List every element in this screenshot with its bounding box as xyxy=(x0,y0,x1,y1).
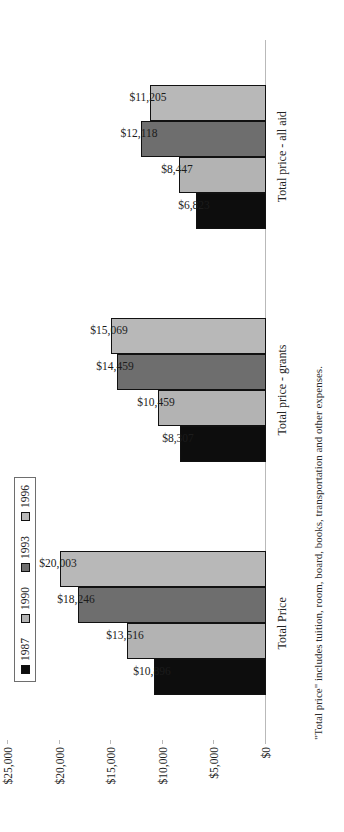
bar-1987-3: $6,823 xyxy=(196,193,266,229)
bar-value-label: $8,447 xyxy=(161,163,193,175)
category-label: Total Price xyxy=(275,507,290,740)
chart-canvas: 1987 1990 1993 1996 $25,000$20,000$15,00… xyxy=(0,0,344,832)
category-label: Total price - all aid xyxy=(275,40,290,273)
bar-1996-1: $20,003 xyxy=(60,551,266,587)
y-tick-label: $20,000 xyxy=(54,747,66,784)
bar-1987-2: $8,307 xyxy=(180,426,266,462)
y-tick xyxy=(265,740,266,744)
bar-1996-2: $15,069 xyxy=(111,318,267,354)
bar-value-label: $13,516 xyxy=(106,629,143,641)
bar-value-label: $12,118 xyxy=(120,127,157,139)
bar-value-label: $6,823 xyxy=(178,199,210,211)
bar-value-label: $15,069 xyxy=(90,324,127,336)
bar-1990-2: $10,459 xyxy=(158,390,266,426)
bar-group: $8,307$10,459$14,459$15,069Total price -… xyxy=(8,273,266,506)
plot-area: $25,000$20,000$15,000$10,000$5,000$0 $10… xyxy=(8,40,266,740)
y-tick xyxy=(213,740,214,744)
chart-footnote: "Total price" includes tuition, room, bo… xyxy=(312,366,324,740)
bar-1987-1: $10,896 xyxy=(154,659,266,695)
bar-value-label: $18,246 xyxy=(57,593,94,605)
bar-value-label: $20,003 xyxy=(39,557,76,569)
y-tick xyxy=(7,740,8,744)
y-tick-label: $5,000 xyxy=(208,747,220,779)
y-tick-label: $10,000 xyxy=(157,747,169,784)
bar-1993-3: $12,118 xyxy=(141,121,266,157)
bar-chart-figure: 1987 1990 1993 1996 $25,000$20,000$15,00… xyxy=(0,0,344,832)
y-tick xyxy=(110,740,111,744)
bar-group: $6,823$8,447$12,118$11,205Total price - … xyxy=(8,40,266,273)
bar-value-label: $14,459 xyxy=(96,360,133,372)
y-tick-label: $25,000 xyxy=(2,747,14,784)
bar-1993-1: $18,246 xyxy=(78,587,266,623)
bar-1990-3: $8,447 xyxy=(179,157,266,193)
y-tick-label: $15,000 xyxy=(105,747,117,784)
bar-value-label: $10,896 xyxy=(133,665,170,677)
y-tick xyxy=(162,740,163,744)
bar-value-label: $11,205 xyxy=(130,91,167,103)
bar-group: $10,896$13,516$18,246$20,003Total Price xyxy=(8,507,266,740)
bar-value-label: $8,307 xyxy=(162,432,194,444)
category-label: Total price - grants xyxy=(275,273,290,506)
bar-1996-3: $11,205 xyxy=(150,85,266,121)
y-tick xyxy=(59,740,60,744)
bar-1993-2: $14,459 xyxy=(117,354,266,390)
y-tick-label: $0 xyxy=(260,747,272,759)
bar-1990-1: $13,516 xyxy=(127,623,266,659)
bar-value-label: $10,459 xyxy=(137,396,174,408)
